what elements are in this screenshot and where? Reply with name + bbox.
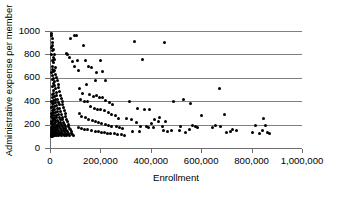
x-tick-400000 [151,149,152,153]
data-point [161,125,164,128]
data-point [76,59,79,62]
data-point [266,131,269,134]
data-point [73,65,76,68]
data-point [60,134,63,137]
y-tick-label-400: 400 [0,96,40,106]
data-point [58,103,61,106]
data-point [103,109,106,112]
data-point [75,34,78,37]
data-point [261,129,264,132]
data-point [170,129,173,132]
data-point [164,120,167,123]
y-tick-label-600: 600 [0,72,40,82]
y-tick-label-1000: 1000 [0,26,40,36]
data-point [214,124,217,127]
data-point [139,125,142,128]
gridline-y-600 [51,78,302,79]
data-point [85,83,88,86]
data-point [111,103,114,106]
data-point [123,134,126,137]
y-tick-200 [45,125,50,126]
data-point [225,131,228,134]
x-tick-0 [50,149,51,153]
data-point [86,128,89,131]
data-point [87,118,90,121]
y-tick-800 [45,54,50,55]
data-point [200,114,203,117]
data-point [101,70,104,73]
data-point [72,134,75,137]
data-point [90,129,93,132]
data-point [264,124,267,127]
data-point [84,59,87,62]
x-tick-1000000 [302,149,303,153]
data-point [51,49,54,52]
data-point [94,79,97,82]
data-point [116,133,119,136]
data-point [218,87,221,90]
data-point [189,102,192,105]
data-point [117,117,120,120]
data-point [128,100,131,103]
data-point [179,125,182,128]
data-point [77,69,80,72]
data-point [121,127,124,130]
data-point [51,37,54,40]
y-tick-label-0: 0 [0,143,40,153]
data-point [68,134,71,137]
data-point [147,126,150,129]
data-point [219,125,222,128]
data-point [99,108,102,111]
data-point [82,44,85,47]
data-point [143,108,146,111]
gridline-y-800 [51,54,302,55]
data-point [58,90,61,93]
data-point [52,61,55,64]
x-tick-800000 [252,149,253,153]
x-tick-600000 [201,149,202,153]
data-point [138,130,141,133]
data-point [86,100,89,103]
x-tick-label-1000000: 1,000,000 [267,155,337,166]
data-point [153,118,156,121]
scatter-chart: Administrative expense per member 020040… [0,0,338,205]
x-tick-200000 [100,149,101,153]
data-point [130,118,133,121]
data-point [136,107,139,110]
data-point [68,56,71,59]
data-point [110,113,113,116]
data-point [69,37,72,40]
data-point [57,86,60,89]
data-point [163,41,166,44]
data-point [88,93,91,96]
data-point [81,92,84,95]
data-point [211,126,214,129]
data-point [231,128,234,131]
data-point [63,134,66,137]
gridline-y-1000 [51,31,302,32]
data-point [71,60,74,63]
data-point [95,71,98,74]
data-point [148,108,151,111]
x-axis-line [50,148,302,149]
data-point [104,79,107,82]
data-point [235,129,238,132]
data-point [89,105,92,108]
data-point [251,131,254,134]
data-point [90,66,93,69]
data-point [131,130,134,133]
data-point [188,128,191,131]
data-point [157,120,160,123]
y-tick-label-200: 200 [0,119,40,129]
y-tick-600 [45,78,50,79]
y-tick-label-800: 800 [0,49,40,59]
data-point [254,124,257,127]
plot-area [50,31,302,148]
data-point [194,125,197,128]
data-point [150,122,153,125]
data-point [158,116,161,119]
data-point [152,126,155,129]
data-point [166,130,169,133]
data-point [184,131,187,134]
data-point [78,87,81,90]
